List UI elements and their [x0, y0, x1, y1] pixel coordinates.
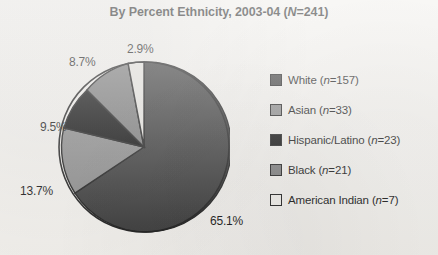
chart-title-italic-n: N	[288, 5, 297, 19]
legend-item-black[interactable]: Black (n=21)	[270, 162, 436, 177]
legend-label-american-indian: American Indian (n=7)	[288, 194, 398, 206]
legend-label-asian: Asian (n=33)	[288, 104, 352, 116]
legend-swatch-black	[270, 164, 282, 176]
data-label-hispanic-latino: 9.5%	[40, 120, 67, 134]
pie-chart-graphic	[58, 61, 230, 233]
legend-label-hispanic-latino: Hispanic/Latino (n=23)	[288, 134, 400, 146]
pie-svg	[58, 61, 230, 233]
legend-label-black: Black (n=21)	[288, 164, 351, 176]
legend-swatch-hispanic-latino	[270, 134, 282, 146]
legend-item-hispanic-latino[interactable]: Hispanic/Latino (n=23)	[270, 132, 436, 147]
chart-title-prefix: By Percent Ethnicity, 2003-04 (	[110, 5, 288, 19]
chart-legend: White (n=157) Asian (n=33) Hispanic/Lati…	[270, 72, 436, 207]
legend-swatch-american-indian	[270, 194, 282, 206]
data-label-asian: 13.7%	[20, 184, 53, 198]
chart-title-suffix: =241)	[297, 5, 329, 19]
legend-item-white[interactable]: White (n=157)	[270, 72, 436, 87]
legend-item-asian[interactable]: Asian (n=33)	[270, 102, 436, 117]
chart-title: By Percent Ethnicity, 2003-04 (N=241)	[0, 5, 438, 19]
legend-item-american-indian[interactable]: American Indian (n=7)	[270, 192, 436, 207]
pie-chart-figure: By Percent Ethnicity, 2003-04 (N=241) 65…	[0, 0, 438, 255]
legend-swatch-asian	[270, 104, 282, 116]
data-label-black: 8.7%	[69, 55, 96, 69]
legend-swatch-white	[270, 74, 282, 86]
legend-label-white: White (n=157)	[288, 74, 359, 86]
data-label-white: 65.1%	[210, 214, 243, 228]
data-label-american-indian: 2.9%	[127, 42, 154, 56]
